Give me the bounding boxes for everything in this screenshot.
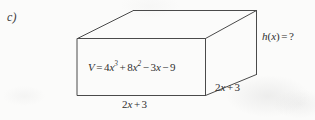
volume-equals: = [95,61,104,73]
depth-dimension-label: 2x+3 [215,82,240,93]
volume-formula-label: V=4x3+8x2−3x−9 [88,62,176,73]
width-plus: + [132,98,141,110]
height-unknown-label: h(x)=? [262,31,294,42]
depth-plus: + [225,81,234,93]
rectangular-prism-drawing [0,0,315,120]
volume-lhs: V [88,61,95,73]
volume-term4-constant: 9 [170,61,176,73]
height-equals: = [280,30,289,42]
width-constant: 3 [142,98,148,110]
height-value: ? [289,30,294,42]
box-top-left-receding-edge [78,11,134,39]
volume-sign3: − [161,61,170,73]
box-top-right-receding-edge [206,11,257,39]
exercise-figure: c) V=4x3+8x2−3x−9 h(x)=? 2x+3 2x+3 [0,0,315,120]
depth-constant: 3 [235,81,241,93]
volume-sign1: + [118,61,127,73]
width-dimension-label: 2x+3 [122,99,147,110]
